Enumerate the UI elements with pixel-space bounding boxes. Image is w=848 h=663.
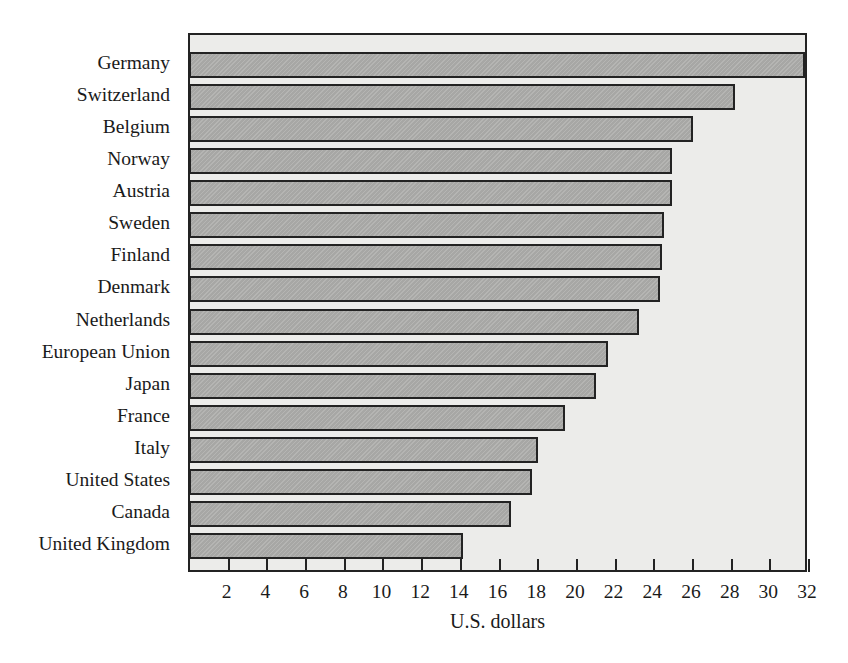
x-axis-tick bbox=[421, 559, 423, 572]
x-axis-tick-label: 24 bbox=[632, 580, 672, 604]
bar bbox=[189, 309, 639, 335]
category-label: Finland bbox=[0, 242, 170, 268]
x-axis-tick-label: 2 bbox=[207, 580, 247, 604]
category-label: Canada bbox=[0, 499, 170, 525]
category-label: Netherlands bbox=[0, 307, 170, 333]
x-axis-tick bbox=[692, 559, 694, 572]
x-axis-tick bbox=[731, 559, 733, 572]
bar bbox=[189, 148, 672, 174]
x-axis-tick bbox=[576, 559, 578, 572]
category-label: Denmark bbox=[0, 274, 170, 300]
bar bbox=[189, 533, 463, 559]
bar bbox=[189, 84, 735, 110]
bar bbox=[189, 405, 565, 431]
category-label: Norway bbox=[0, 146, 170, 172]
x-axis-tick-label: 8 bbox=[323, 580, 363, 604]
x-axis-tick-label: 6 bbox=[284, 580, 324, 604]
x-axis-title: U.S. dollars bbox=[188, 610, 807, 633]
x-axis-tick bbox=[769, 559, 771, 572]
x-axis-tick-label: 26 bbox=[671, 580, 711, 604]
x-axis-tick bbox=[228, 559, 230, 572]
x-axis-tick-label: 18 bbox=[516, 580, 556, 604]
x-axis-tick bbox=[808, 559, 810, 572]
x-axis-tick-label: 28 bbox=[710, 580, 750, 604]
category-label: European Union bbox=[0, 339, 170, 365]
x-axis-tick-label: 32 bbox=[787, 580, 827, 604]
category-label: Belgium bbox=[0, 114, 170, 140]
category-axis-labels: GermanySwitzerlandBelgiumNorwayAustriaSw… bbox=[0, 33, 180, 572]
x-axis-tick-label: 12 bbox=[400, 580, 440, 604]
x-axis-tick bbox=[305, 559, 307, 572]
bar bbox=[189, 437, 538, 463]
x-axis-tick-label: 16 bbox=[478, 580, 518, 604]
x-axis-tick-label: 14 bbox=[439, 580, 479, 604]
x-axis-tick bbox=[537, 559, 539, 572]
category-label: United Kingdom bbox=[0, 531, 170, 557]
category-label: Italy bbox=[0, 435, 170, 461]
x-axis-tick bbox=[460, 559, 462, 572]
x-axis-tick bbox=[266, 559, 268, 572]
x-axis-tick-label: 30 bbox=[748, 580, 788, 604]
plot-area bbox=[188, 33, 807, 572]
bar bbox=[189, 180, 672, 206]
x-axis-tick bbox=[615, 559, 617, 572]
x-axis-tick-label: 10 bbox=[361, 580, 401, 604]
bars-layer bbox=[190, 35, 805, 570]
x-axis-tick bbox=[344, 559, 346, 572]
x-axis-tick bbox=[382, 559, 384, 572]
category-label: Austria bbox=[0, 178, 170, 204]
bar bbox=[189, 373, 596, 399]
x-axis-tick-label: 22 bbox=[594, 580, 634, 604]
bar bbox=[189, 244, 662, 270]
bar bbox=[189, 116, 693, 142]
category-label: Switzerland bbox=[0, 82, 170, 108]
bar bbox=[189, 212, 664, 238]
category-label: United States bbox=[0, 467, 170, 493]
bar bbox=[189, 501, 511, 527]
category-label: Germany bbox=[0, 50, 170, 76]
x-axis-tick-label: 20 bbox=[555, 580, 595, 604]
category-label: Sweden bbox=[0, 210, 170, 236]
bar bbox=[189, 52, 805, 78]
x-axis-tick bbox=[499, 559, 501, 572]
bar bbox=[189, 341, 608, 367]
x-axis-tick bbox=[653, 559, 655, 572]
category-label: Japan bbox=[0, 371, 170, 397]
category-label: France bbox=[0, 403, 170, 429]
x-axis-tick-label: 4 bbox=[245, 580, 285, 604]
bar bbox=[189, 469, 532, 495]
bar bbox=[189, 276, 660, 302]
bar-chart: GermanySwitzerlandBelgiumNorwayAustriaSw… bbox=[0, 0, 848, 663]
